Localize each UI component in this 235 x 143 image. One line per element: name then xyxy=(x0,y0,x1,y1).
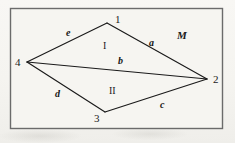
edge-label-e: e xyxy=(66,28,70,38)
edge-label-a: a xyxy=(149,38,154,48)
edge-label-b: b xyxy=(118,56,123,66)
figure-frame xyxy=(11,9,223,129)
edge-label-d: d xyxy=(55,89,60,99)
region-label-m: M xyxy=(177,30,187,41)
figure-container: 1 2 3 4 e a b c d I II M xyxy=(0,0,235,143)
vertex-label-4: 4 xyxy=(15,57,21,68)
vertex-label-1: 1 xyxy=(115,14,121,25)
edge-label-c: c xyxy=(160,100,164,110)
vertex-label-2: 2 xyxy=(213,74,219,85)
region-label-two: II xyxy=(109,86,116,96)
vertex-label-3: 3 xyxy=(94,113,100,124)
region-label-one: I xyxy=(103,41,106,51)
